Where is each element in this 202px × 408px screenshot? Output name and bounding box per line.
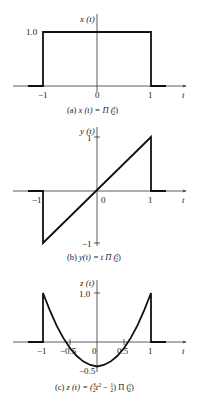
x-tick-label-0: 0 <box>101 195 106 205</box>
caption-a: (a) x (t) = Π (t2) <box>67 105 118 116</box>
x-tick-label-neg05: −0.5 <box>60 346 77 356</box>
x-tick-label-05: 0.5 <box>117 346 129 356</box>
y-tick-label-top: 1.0 <box>26 27 38 37</box>
figure-canvas: x (t) 1.0 −1 0 1 t (a) x (t) = Π (t2) y … <box>0 0 202 408</box>
x-tick-label-1: 1 <box>148 195 153 205</box>
x-axis-label: t <box>182 195 185 205</box>
y-tick-label-top: 1 <box>87 133 92 143</box>
x-tick-label-0: 0 <box>92 346 97 356</box>
x-tick-label-0: 0 <box>95 90 100 100</box>
x-axis-label: t <box>182 90 185 100</box>
x-axis-label: t <box>182 346 185 356</box>
caption-c: (c) z (t) = (32t2 − 12) Π (t2) <box>55 382 134 393</box>
panel-a: x (t) 1.0 −1 0 1 t (a) x (t) = Π (t2) <box>13 14 186 116</box>
x-tick-label-1: 1 <box>148 346 153 356</box>
x-tick-label-neg1: −1 <box>38 90 48 100</box>
y-axis-label: x (t) <box>79 14 95 24</box>
caption-b: (b) y(t) = t Π (t2) <box>67 252 121 263</box>
y-tick-label-bottom: −1 <box>82 239 92 249</box>
y-axis-label: z (t) <box>79 278 94 288</box>
panel-b: y (t) 1 −1 −1 0 1 t (b) y(t) = t Π (t2) <box>13 126 186 263</box>
y-tick-label-bottom: −0.5 <box>79 366 96 376</box>
x-tick-label-neg1: −1 <box>37 346 47 356</box>
x-tick-label-1: 1 <box>148 90 153 100</box>
x-tick-label-neg1: −1 <box>32 195 42 205</box>
y-tick-label-top: 1.0 <box>79 289 91 299</box>
panel-c: z (t) 1.0 −0.5 −1 −0.5 0 0.5 1 t (c) z (… <box>13 278 186 393</box>
